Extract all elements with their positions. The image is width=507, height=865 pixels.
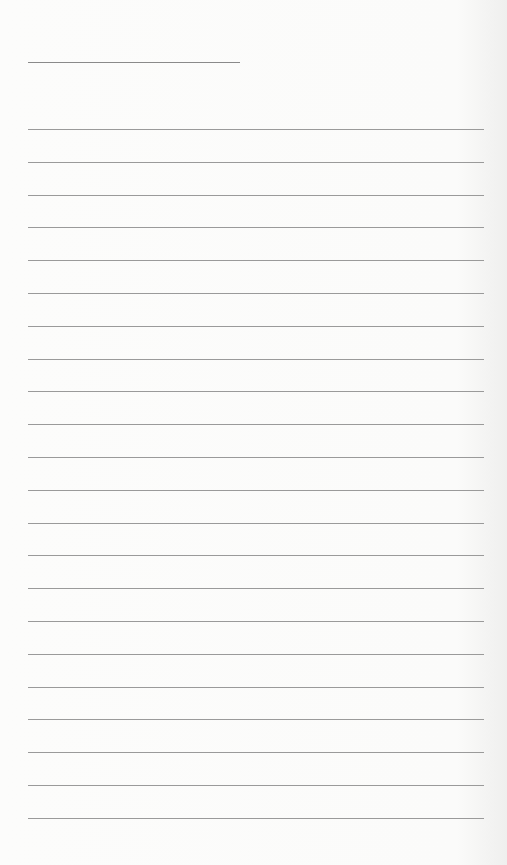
lined-paper-page: [0, 0, 507, 865]
ruled-line: [28, 391, 484, 392]
ruled-line: [28, 555, 484, 556]
ruled-line: [28, 457, 484, 458]
ruled-line: [28, 588, 484, 589]
ruled-line: [28, 785, 484, 786]
ruled-line: [28, 490, 484, 491]
ruled-line: [28, 227, 484, 228]
ruled-line: [28, 195, 484, 196]
ruled-line: [28, 687, 484, 688]
ruled-line: [28, 162, 484, 163]
ruled-line: [28, 326, 484, 327]
ruled-line: [28, 719, 484, 720]
ruled-line: [28, 293, 484, 294]
ruled-line: [28, 621, 484, 622]
ruled-line: [28, 424, 484, 425]
ruled-line: [28, 523, 484, 524]
ruled-line: [28, 818, 484, 819]
ruled-line: [28, 260, 484, 261]
ruled-line: [28, 129, 484, 130]
ruled-line: [28, 752, 484, 753]
ruled-line: [28, 359, 484, 360]
ruled-line: [28, 654, 484, 655]
title-line: [28, 62, 240, 63]
